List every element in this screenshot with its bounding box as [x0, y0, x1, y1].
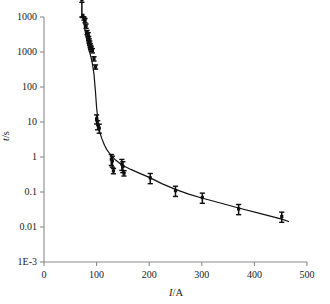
y-tick-label: 1000: [17, 11, 37, 22]
x-axis-ticks: [44, 262, 307, 266]
y-axis-ticks: [40, 17, 44, 262]
fitted-curve: [81, 17, 288, 222]
data-point: [111, 168, 116, 173]
data-point: [91, 57, 96, 61]
y-tick-label: 100: [22, 81, 37, 92]
data-point: [279, 212, 284, 222]
data-points-group: [79, 0, 284, 222]
y-tick-label: 1000: [17, 46, 37, 57]
axes-group: [40, 17, 307, 266]
data-point: [236, 204, 241, 214]
x-axis-title: I/A: [168, 287, 183, 298]
x-tick-label: 100: [89, 269, 104, 280]
y-axis-tick-labels: 100010001001010.10.011E-3: [17, 11, 37, 267]
x-tick-label: 500: [300, 269, 315, 280]
y-tick-label: 10: [27, 116, 37, 127]
y-tick-label: 1: [32, 151, 37, 162]
y-tick-label: 0.01: [20, 221, 38, 232]
x-tick-label: 400: [247, 269, 262, 280]
chart-figure: 100010001001010.10.011E-3 01002003004005…: [0, 0, 330, 304]
data-point: [93, 65, 98, 69]
chart-canvas: 100010001001010.10.011E-3 01002003004005…: [0, 0, 330, 304]
y-tick-label: 0.1: [25, 186, 38, 197]
x-axis-tick-labels: 0100200300400500: [42, 269, 315, 280]
y-axis-title: t/s: [0, 131, 11, 141]
x-tick-label: 300: [194, 269, 209, 280]
x-tick-label: 200: [142, 269, 157, 280]
y-tick-label: 1E-3: [18, 256, 37, 267]
data-point: [173, 186, 178, 196]
x-tick-label: 0: [42, 269, 47, 280]
